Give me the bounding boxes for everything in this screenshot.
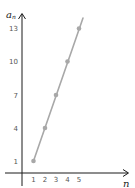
y-tick-label: 4 [14,125,19,133]
y-tick-label: 10 [9,58,18,66]
y-tick-label: 13 [9,25,18,33]
x-tick-label: 5 [77,176,81,184]
y-tick-label: 1 [14,158,18,166]
y-axis-label-subscript: n [12,13,16,20]
y-tick-labels: 1 4 7 10 13 [9,25,18,166]
data-point [54,93,59,98]
x-tick-label: 1 [31,176,35,184]
data-point [43,126,48,131]
y-tick-label: 7 [14,92,18,100]
x-tick-label: 2 [43,176,47,184]
series-line [34,18,84,161]
x-tick-labels: 1 2 3 4 5 [31,176,81,184]
axes [5,14,129,187]
x-axis-label: n [123,178,129,188]
data-point [31,159,36,164]
chart: a n n 1 4 7 10 13 1 2 3 4 5 [0,0,135,188]
data-point [77,26,82,31]
x-tick-label: 4 [65,176,70,184]
data-point [65,59,70,64]
x-tick-label: 3 [54,176,58,184]
